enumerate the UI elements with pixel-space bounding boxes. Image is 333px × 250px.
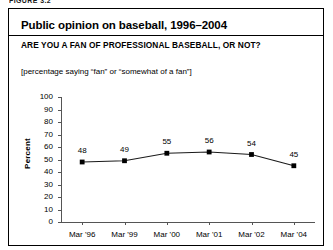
point-value-label: 55 (152, 138, 182, 146)
series-plot (9, 87, 325, 245)
series-marker (80, 160, 85, 165)
point-value-label: 49 (110, 146, 140, 154)
series-marker (164, 151, 169, 156)
running-header: FIGURE 3.2 (9, 0, 129, 5)
series-marker (207, 150, 212, 155)
series-marker (122, 158, 127, 163)
point-value-label: 56 (194, 137, 224, 145)
figure-root: FIGURE 3.2 Public opinion on baseball, 1… (0, 0, 333, 250)
series-marker (291, 163, 296, 168)
series-marker (249, 152, 254, 157)
figure-frame: Public opinion on baseball, 1996–2004 AR… (8, 8, 324, 246)
figure-title: Public opinion on baseball, 1996–2004 (21, 19, 227, 31)
figure-note: [percentage saying “fan” or “somewhat of… (21, 67, 192, 76)
series-line (82, 152, 294, 166)
point-value-label: 54 (237, 140, 267, 148)
point-value-label: 48 (67, 147, 97, 155)
survey-question: ARE YOU A FAN OF PROFESSIONAL BASEBALL, … (21, 40, 261, 50)
title-divider (9, 35, 323, 36)
plot-area: Percent 1009080706050403020100 Mar '96Ma… (9, 87, 325, 245)
point-value-label: 45 (279, 151, 309, 159)
